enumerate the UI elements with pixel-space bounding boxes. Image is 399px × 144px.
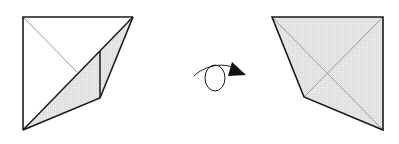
left-figure: [23, 17, 133, 130]
crease-line: [24, 18, 77, 72]
turn-over-arrow-icon: [194, 62, 246, 91]
origami-diagram: [0, 0, 399, 144]
right-figure: [272, 17, 383, 130]
